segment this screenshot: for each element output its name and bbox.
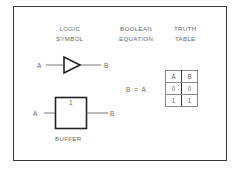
table-row: 1 1 [166, 95, 198, 107]
table-header-row: A B [166, 71, 198, 83]
table-row: 0 0 [166, 83, 198, 95]
buffer-caption: BUFFER [55, 134, 82, 144]
table-cell: 0 [166, 83, 182, 95]
triangle-output-label: B [104, 62, 108, 69]
box-inner-label: 1 [69, 99, 73, 106]
boolean-equation: B = A [126, 86, 147, 93]
box-input-label: A [33, 110, 37, 117]
table-cell: 1 [182, 95, 198, 107]
table-cell: 0 [182, 83, 198, 95]
buffer-triangle-icon [64, 57, 80, 73]
table-cell: 1 [166, 95, 182, 107]
triangle-input-label: A [37, 62, 41, 69]
box-output-label: B [110, 110, 114, 117]
logic-symbols-svg [0, 0, 237, 169]
truth-table: A B 0 0 1 1 [165, 70, 198, 107]
table-header-cell: B [182, 71, 198, 83]
table-header-cell: A [166, 71, 182, 83]
